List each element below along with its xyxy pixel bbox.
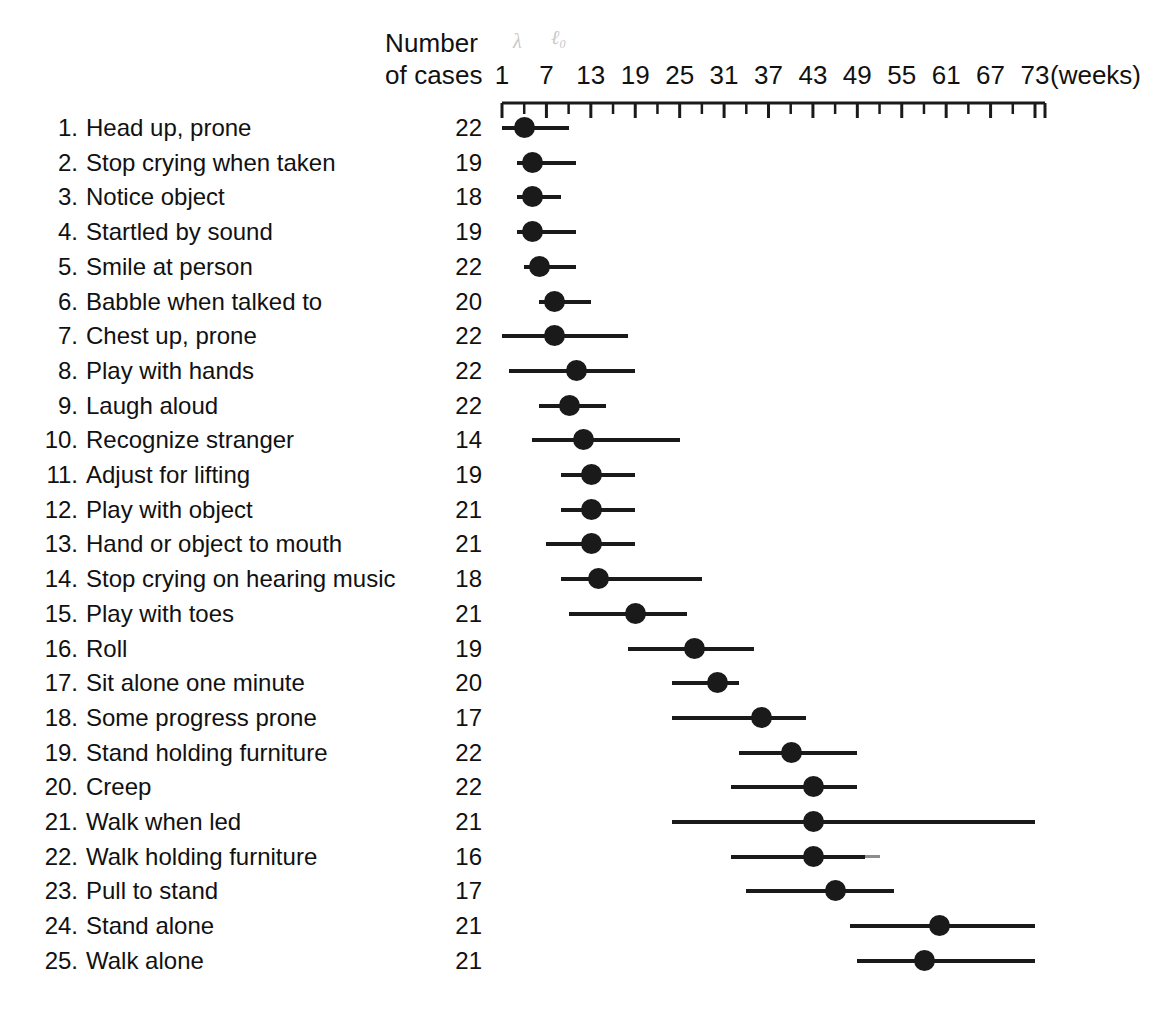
x-tick-label-43: 43 xyxy=(798,60,827,91)
milestone-row: 5.Smile at person22 xyxy=(0,249,1164,284)
median-dot xyxy=(544,325,565,346)
milestone-row: 6.Babble when talked to20 xyxy=(0,284,1164,319)
range-line xyxy=(731,855,864,859)
milestone-row: 13.Hand or object to mouth21 xyxy=(0,526,1164,561)
range-line xyxy=(532,438,680,442)
milestone-row: 18.Some progress prone17 xyxy=(0,700,1164,735)
x-axis-unit-label: (weeks) xyxy=(1050,60,1141,91)
median-dot xyxy=(781,742,802,763)
range-plot xyxy=(0,769,1164,804)
pencil-annotation-2: ℓ₀ xyxy=(551,26,566,49)
range-plot xyxy=(0,110,1164,145)
median-dot xyxy=(929,915,950,936)
median-dot xyxy=(803,846,824,867)
milestone-row: 4.Startled by sound19 xyxy=(0,214,1164,249)
median-dot xyxy=(803,811,824,832)
range-plot xyxy=(0,249,1164,284)
median-dot xyxy=(581,533,602,554)
x-tick-label-19: 19 xyxy=(621,60,650,91)
milestone-row: 20.Creep22 xyxy=(0,769,1164,804)
number-of-cases-heading-line1: Number xyxy=(385,28,478,59)
median-dot xyxy=(625,603,646,624)
x-tick-label-25: 25 xyxy=(665,60,694,91)
range-plot xyxy=(0,839,1164,874)
milestone-row: 21.Walk when led21 xyxy=(0,804,1164,839)
median-dot xyxy=(514,117,535,138)
range-plot xyxy=(0,908,1164,943)
milestone-row: 1.Head up, prone22 xyxy=(0,110,1164,145)
range-plot xyxy=(0,318,1164,353)
milestone-row: 11.Adjust for lifting19 xyxy=(0,457,1164,492)
range-plot xyxy=(0,596,1164,631)
range-plot xyxy=(0,735,1164,770)
range-plot xyxy=(0,943,1164,978)
range-line xyxy=(672,716,805,720)
x-tick-label-73: 73 xyxy=(1021,60,1050,91)
milestone-row: 15.Play with toes21 xyxy=(0,596,1164,631)
x-tick-label-7: 7 xyxy=(539,60,553,91)
x-tick-label-61: 61 xyxy=(932,60,961,91)
number-of-cases-heading-line2: of cases xyxy=(385,60,483,91)
x-tick-label-13: 13 xyxy=(576,60,605,91)
range-plot xyxy=(0,145,1164,180)
range-line xyxy=(502,126,569,130)
range-plot xyxy=(0,700,1164,735)
range-line xyxy=(502,334,628,338)
range-plot xyxy=(0,284,1164,319)
median-dot xyxy=(529,256,550,277)
range-plot xyxy=(0,561,1164,596)
milestone-row: 3.Notice object18 xyxy=(0,179,1164,214)
median-dot xyxy=(522,221,543,242)
range-line xyxy=(731,785,857,789)
range-plot xyxy=(0,492,1164,527)
x-tick-label-37: 37 xyxy=(754,60,783,91)
median-dot xyxy=(581,464,602,485)
range-plot xyxy=(0,804,1164,839)
range-line-faded-tail xyxy=(865,855,880,858)
milestone-row: 14.Stop crying on hearing music18 xyxy=(0,561,1164,596)
range-line xyxy=(672,820,1035,824)
median-dot xyxy=(522,186,543,207)
milestone-row: 16.Roll19 xyxy=(0,631,1164,666)
median-dot xyxy=(803,776,824,797)
median-dot xyxy=(544,291,565,312)
range-plot xyxy=(0,457,1164,492)
range-line xyxy=(561,577,702,581)
milestone-row: 22.Walk holding furniture16 xyxy=(0,839,1164,874)
range-plot xyxy=(0,631,1164,666)
median-dot xyxy=(581,499,602,520)
median-dot xyxy=(707,672,728,693)
range-plot xyxy=(0,665,1164,700)
median-dot xyxy=(588,568,609,589)
range-plot xyxy=(0,179,1164,214)
pencil-annotation-1: λ xyxy=(513,30,522,53)
range-plot xyxy=(0,873,1164,908)
range-line xyxy=(857,959,1035,963)
x-tick-label-67: 67 xyxy=(976,60,1005,91)
range-plot xyxy=(0,388,1164,423)
range-plot xyxy=(0,353,1164,388)
median-dot xyxy=(914,950,935,971)
milestone-row: 23.Pull to stand17 xyxy=(0,873,1164,908)
range-plot xyxy=(0,526,1164,561)
median-dot xyxy=(566,360,587,381)
x-tick-label-49: 49 xyxy=(843,60,872,91)
median-dot xyxy=(559,395,580,416)
median-dot xyxy=(684,638,705,659)
milestone-row: 19.Stand holding furniture22 xyxy=(0,735,1164,770)
milestones-range-chart: Number of cases (weeks) λ ℓ₀ 17131925313… xyxy=(0,0,1164,1017)
milestone-row: 12.Play with object21 xyxy=(0,492,1164,527)
median-dot xyxy=(522,152,543,173)
milestone-row: 8.Play with hands22 xyxy=(0,353,1164,388)
milestone-row: 7.Chest up, prone22 xyxy=(0,318,1164,353)
range-plot xyxy=(0,214,1164,249)
milestone-row: 25.Walk alone21 xyxy=(0,943,1164,978)
range-line xyxy=(746,889,894,893)
range-line xyxy=(672,681,739,685)
median-dot xyxy=(751,707,772,728)
x-tick-label-55: 55 xyxy=(887,60,916,91)
milestone-row: 2.Stop crying when taken19 xyxy=(0,145,1164,180)
median-dot xyxy=(573,429,594,450)
x-tick-label-31: 31 xyxy=(710,60,739,91)
x-tick-label-1: 1 xyxy=(495,60,509,91)
